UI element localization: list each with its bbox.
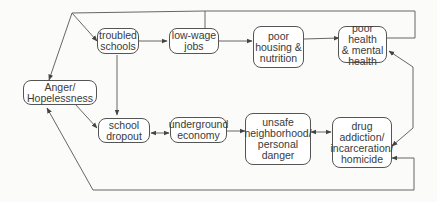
node-poor-housing-nutrition: poor housing & nutrition (253, 26, 304, 68)
node-low-wage-jobs: low-wage jobs (169, 28, 219, 54)
edge-anger-to-dropout (75, 104, 97, 128)
cycle-diagram: Anger/ Hopelessness troubled schools low… (0, 0, 437, 202)
edge-anger-to-troubled-schools (72, 13, 97, 41)
edge-housing-to-health (304, 38, 339, 39)
node-drug-addiction: drug addiction/ incarceration/ homicide (332, 117, 392, 168)
node-unsafe-neighborhood: unsafe neighborhood/ personal danger (245, 113, 311, 165)
node-troubled-schools: troubled schools (97, 28, 139, 54)
node-anger-hopelessness: Anger/ Hopelessness (23, 80, 97, 105)
node-underground-economy: underground economy (170, 117, 227, 143)
node-school-dropout: school dropout (98, 118, 150, 143)
node-poor-health: poor health & mental health (338, 26, 387, 63)
